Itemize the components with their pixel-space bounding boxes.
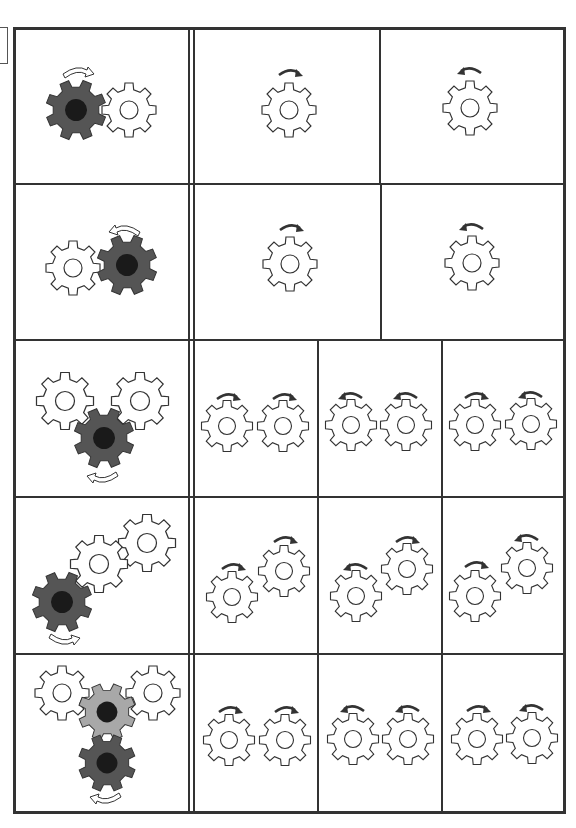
arrow-clockwise-icon — [465, 392, 489, 400]
gear-icon — [262, 83, 316, 137]
arrow-counterclockwise-icon — [338, 392, 362, 400]
arrow-clockwise-icon — [465, 561, 489, 569]
row4-option-b[interactable] — [331, 536, 433, 622]
arrow-clockwise-icon — [222, 563, 246, 571]
row4-example — [23, 515, 176, 646]
row5-left-gear-icon — [35, 666, 89, 720]
arrow-clockwise-icon — [275, 706, 299, 714]
row1-option-b[interactable] — [443, 67, 497, 135]
arrow-clockwise-icon — [219, 706, 243, 714]
gear-icon — [207, 572, 258, 623]
gear-icon — [507, 713, 558, 764]
gear-icon — [263, 237, 317, 291]
row5-option-c[interactable] — [452, 704, 558, 765]
row4-middle-gear-icon — [71, 536, 128, 593]
row2-example — [46, 225, 166, 304]
row5-option-a[interactable] — [204, 706, 311, 766]
arrow-counterclockwise-icon — [457, 67, 481, 75]
row4-clockwise-hollow-arrow-icon — [49, 634, 80, 645]
arrow-counterclockwise-icon — [340, 705, 364, 713]
row3-example — [37, 373, 169, 484]
row3-option-b[interactable] — [326, 392, 432, 451]
gear-icon — [452, 714, 503, 765]
gear-icon — [204, 715, 255, 766]
gear-icon — [326, 400, 377, 451]
gear-icon — [450, 571, 501, 622]
row2-counterclockwise-hollow-arrow-icon — [109, 225, 140, 236]
row3-option-c[interactable] — [450, 391, 557, 451]
gear-drawings — [0, 0, 576, 828]
gear-icon — [331, 571, 382, 622]
arrow-counterclockwise-icon — [395, 705, 419, 713]
row4-option-a[interactable] — [207, 536, 310, 623]
gear-icon — [450, 400, 501, 451]
gear-icon — [506, 399, 557, 450]
arrow-clockwise-icon — [467, 705, 491, 713]
gear-icon — [202, 401, 253, 452]
row3-left-gear-icon — [37, 373, 94, 430]
row1-driven-gear-icon — [102, 83, 156, 137]
row2-driven-gear-icon — [46, 241, 100, 295]
row5-option-b[interactable] — [328, 705, 434, 765]
arrow-clockwise-icon — [279, 69, 303, 77]
arrow-clockwise-icon — [280, 224, 304, 232]
row2-option-a[interactable] — [263, 224, 317, 291]
row5-driver-gear-icon — [70, 726, 144, 800]
gear-icon — [443, 81, 497, 135]
arrow-counterclockwise-icon — [518, 391, 542, 399]
gear-icon — [383, 714, 434, 765]
arrow-clockwise-icon — [274, 536, 298, 544]
arrow-clockwise-icon — [273, 393, 297, 401]
row2-option-b[interactable] — [445, 223, 499, 290]
gear-icon — [328, 714, 379, 765]
gear-icon — [381, 400, 432, 451]
row3-right-gear-icon — [112, 373, 169, 430]
row1-option-a[interactable] — [262, 69, 316, 137]
arrow-counterclockwise-icon — [343, 563, 367, 571]
arrow-counterclockwise-icon — [514, 534, 538, 542]
gear-icon — [260, 715, 311, 766]
row5-counterclockwise-hollow-arrow-icon — [90, 793, 121, 804]
row1-clockwise-hollow-arrow-icon — [63, 67, 94, 78]
arrow-clockwise-icon — [217, 393, 241, 401]
arrow-counterclockwise-icon — [393, 392, 417, 400]
gear-icon — [502, 543, 553, 594]
row1-example — [37, 67, 156, 149]
arrow-clockwise-icon — [396, 536, 420, 544]
arrow-counterclockwise-icon — [459, 223, 483, 231]
gear-icon — [259, 546, 310, 597]
row3-option-a[interactable] — [202, 393, 309, 452]
arrow-counterclockwise-icon — [519, 704, 543, 712]
row4-option-c[interactable] — [450, 534, 553, 622]
gear-icon — [382, 544, 433, 595]
gear-icon — [258, 401, 309, 452]
row5-example — [35, 666, 180, 804]
row5-right-gear-icon — [126, 666, 180, 720]
row3-counterclockwise-hollow-arrow-icon — [87, 472, 118, 483]
gear-icon — [445, 236, 499, 290]
